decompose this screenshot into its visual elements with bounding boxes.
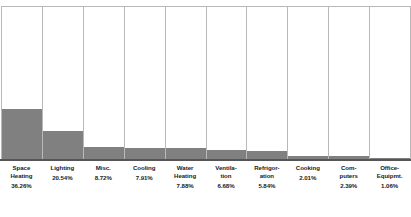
bar-fill-cooling	[125, 148, 165, 159]
category-name: Cooling	[124, 164, 164, 172]
category-name: Ventila- tion	[206, 164, 246, 180]
category-value: 1.06%	[370, 182, 410, 190]
category-value: 7.91%	[124, 174, 164, 182]
category-name: Office- Equipmt.	[370, 164, 410, 180]
category-label-space-heating: Space Heating 36.26%	[1, 164, 42, 214]
bar-fill-refrigeration	[247, 151, 287, 159]
category-value: 20.54%	[42, 174, 82, 182]
category-name: Cooking	[288, 164, 328, 172]
bar-column	[246, 6, 288, 159]
bar-column	[369, 6, 411, 159]
bar-fill-water-heating	[166, 148, 206, 159]
category-value: 2.01%	[288, 174, 328, 182]
category-value: 6.68%	[206, 182, 246, 190]
category-name: Misc.	[83, 164, 123, 172]
category-label-refrigeration: Refrigor- ation 5.84%	[246, 164, 287, 214]
bar-column	[206, 6, 248, 159]
bar-column	[42, 6, 84, 159]
category-label-cooking: Cooking 2.01%	[287, 164, 328, 214]
category-label-cooling: Cooling 7.91%	[124, 164, 165, 214]
category-value: 2.39%	[329, 182, 369, 190]
category-value: 36.26%	[2, 182, 42, 190]
category-value: 8.72%	[83, 174, 123, 182]
bar-fill-misc	[84, 147, 124, 159]
category-name: Water Heating	[165, 164, 205, 180]
category-label-strip: Space Heating 36.26% Lighting 20.54% Mis…	[1, 164, 410, 214]
bar-column	[83, 6, 125, 159]
category-label-office-equipment: Office- Equipmt. 1.06%	[369, 164, 410, 214]
bar-chart: Space Heating 36.26% Lighting 20.54% Mis…	[0, 0, 411, 217]
category-label-misc: Misc. 8.72%	[83, 164, 124, 214]
bar-column	[287, 6, 329, 159]
category-name: Com- puters	[329, 164, 369, 180]
category-name: Space Heating	[2, 164, 42, 180]
bar-fill-space-heating	[2, 109, 42, 159]
category-name: Refrigor- ation	[247, 164, 287, 180]
category-value: 5.84%	[247, 182, 287, 190]
plot-area	[1, 6, 410, 159]
category-name: Lighting	[42, 164, 82, 172]
category-value: 7.88%	[165, 182, 205, 190]
category-label-lighting: Lighting 20.54%	[42, 164, 83, 214]
axis-baseline	[0, 159, 411, 161]
bar-column	[328, 6, 370, 159]
bar-fill-ventilation	[207, 150, 247, 159]
category-label-computers: Com- puters 2.39%	[328, 164, 369, 214]
bar-column	[165, 6, 207, 159]
category-label-water-heating: Water Heating 7.88%	[165, 164, 206, 214]
bar-fill-lighting	[43, 131, 83, 159]
bar-column	[124, 6, 166, 159]
category-label-ventilation: Ventila- tion 6.68%	[206, 164, 247, 214]
bar-column	[1, 6, 43, 159]
